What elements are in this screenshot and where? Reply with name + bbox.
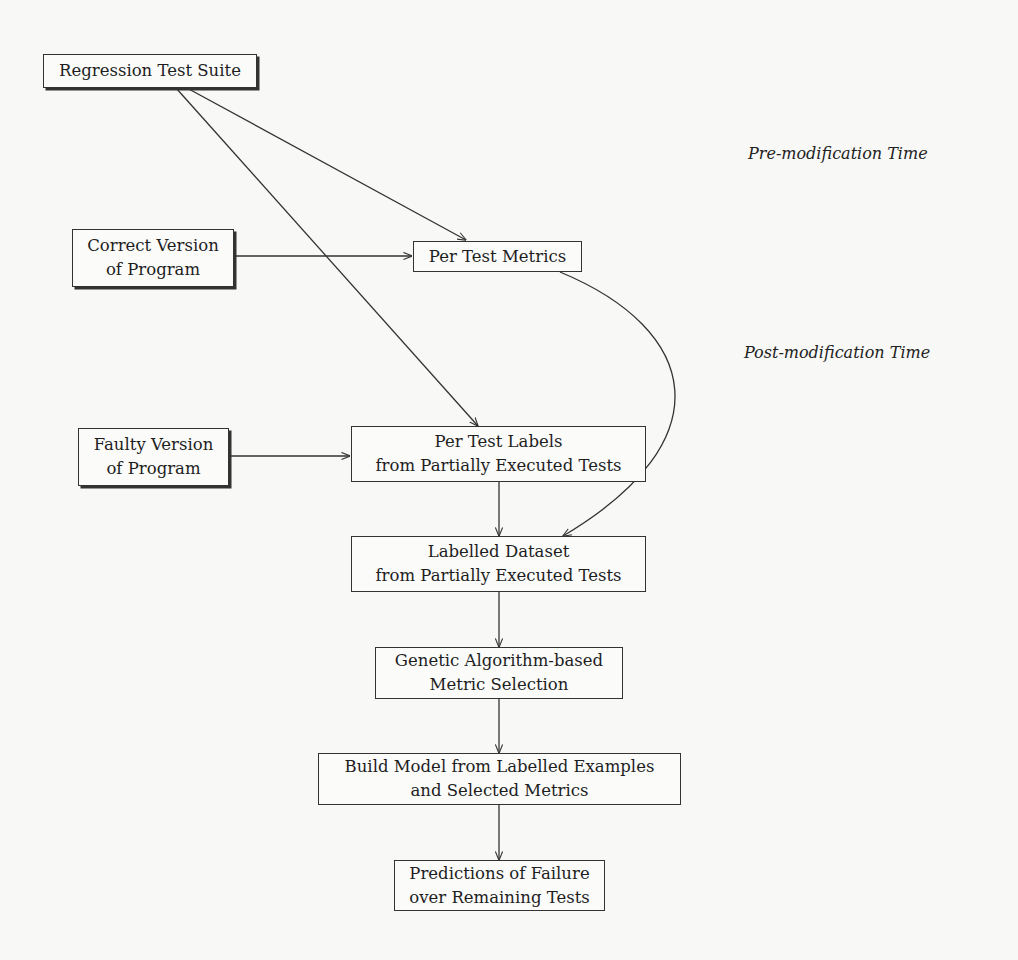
node-label-line-1: Per Test Labels <box>435 430 563 454</box>
node-label-line-2: of Program <box>106 258 200 282</box>
node-label-line-2: over Remaining Tests <box>409 886 590 910</box>
node-label-line-1: Labelled Dataset <box>428 540 570 564</box>
node-label: Regression Test Suite <box>59 59 241 83</box>
node-label-line-1: Faulty Version <box>94 433 214 457</box>
node-label-line-1: Genetic Algorithm-based <box>395 649 603 673</box>
phase-label-post: Post-modification Time <box>744 343 930 362</box>
node-predictions: Predictions of Failure over Remaining Te… <box>394 860 605 911</box>
edge-suite-to-metrics <box>187 88 466 240</box>
node-label-line-2: from Partially Executed Tests <box>375 564 621 588</box>
node-label-line-1: Build Model from Labelled Examples <box>345 755 655 779</box>
node-ga-metric-selection: Genetic Algorithm-based Metric Selection <box>375 647 623 699</box>
node-label-line-2: and Selected Metrics <box>411 779 589 803</box>
node-per-test-metrics: Per Test Metrics <box>413 241 582 272</box>
node-label-line-2: of Program <box>106 457 200 481</box>
node-build-model: Build Model from Labelled Examples and S… <box>318 753 681 805</box>
node-regression-test-suite: Regression Test Suite <box>43 54 257 88</box>
node-per-test-labels: Per Test Labels from Partially Executed … <box>351 426 646 482</box>
node-label-line-2: Metric Selection <box>430 673 569 697</box>
node-label-line-2: from Partially Executed Tests <box>375 454 621 478</box>
node-label: Per Test Metrics <box>429 245 566 269</box>
node-labelled-dataset: Labelled Dataset from Partially Executed… <box>351 536 646 592</box>
edge-metrics-to-dataset <box>560 272 675 536</box>
node-correct-version: Correct Version of Program <box>72 229 234 287</box>
node-faulty-version: Faulty Version of Program <box>78 428 229 486</box>
phase-label-pre: Pre-modification Time <box>748 144 928 163</box>
node-label-line-1: Predictions of Failure <box>409 862 589 886</box>
node-label-line-1: Correct Version <box>87 234 219 258</box>
